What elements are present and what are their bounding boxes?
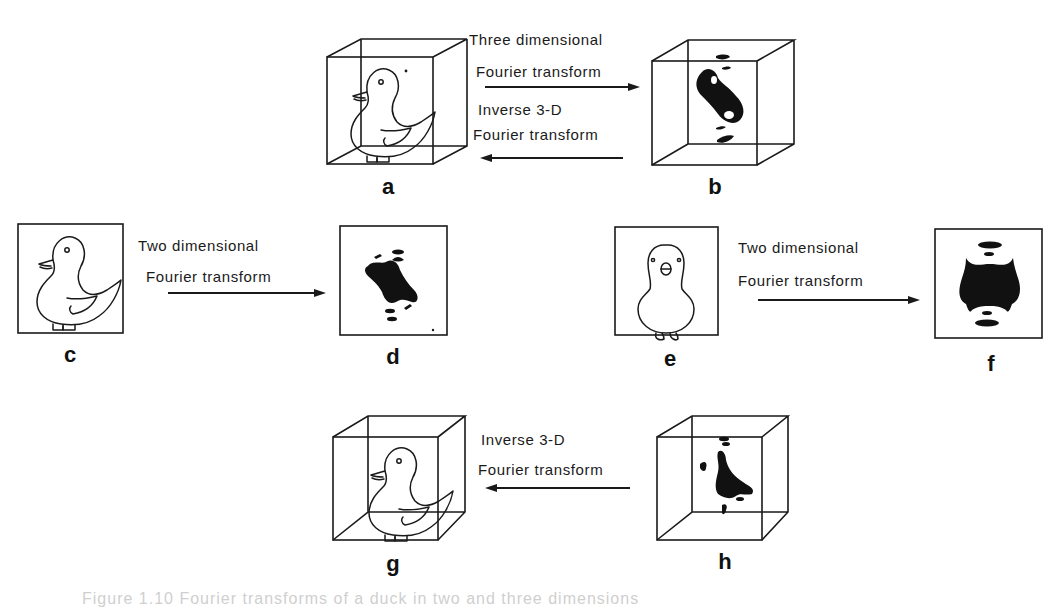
panel-g-cube [333, 416, 465, 541]
panel-a-cube [327, 39, 467, 164]
top-forward-line2: Fourier transform [476, 64, 601, 79]
panel-f-box [935, 229, 1042, 338]
panel-label-d: d [386, 346, 399, 368]
mid-right-arrow [758, 296, 920, 304]
panel-label-h: h [718, 551, 731, 573]
top-forward-line1: Three dimensional [469, 32, 603, 47]
panel-label-c: c [64, 344, 76, 366]
panel-label-g: g [386, 553, 399, 575]
top-inverse-line1: Inverse 3-D [478, 102, 562, 117]
top-forward-arrow [485, 83, 640, 91]
figure-caption: Figure 1.10 Fourier transforms of a duck… [82, 590, 639, 608]
panel-e-box [615, 227, 718, 340]
panel-label-a: a [382, 176, 394, 198]
panel-c-box [18, 224, 123, 333]
mid-left-line2: Fourier transform [146, 269, 271, 284]
mid-right-line2: Fourier transform [738, 273, 863, 288]
panel-label-e: e [664, 348, 676, 370]
mid-left-line1: Two dimensional [138, 238, 259, 253]
top-inverse-line2: Fourier transform [473, 127, 598, 142]
panel-b-cube [652, 40, 794, 165]
bottom-inverse-arrow [485, 484, 630, 492]
mid-left-arrow [168, 289, 326, 297]
bottom-inverse-line1: Inverse 3-D [481, 432, 565, 447]
bottom-inverse-line2: Fourier transform [478, 462, 603, 477]
panel-label-f: f [987, 353, 994, 375]
panel-h-cube [657, 416, 788, 540]
mid-right-line1: Two dimensional [738, 240, 859, 255]
panel-d-box [340, 226, 447, 335]
panel-label-b: b [708, 176, 721, 198]
top-inverse-arrow [480, 154, 623, 162]
